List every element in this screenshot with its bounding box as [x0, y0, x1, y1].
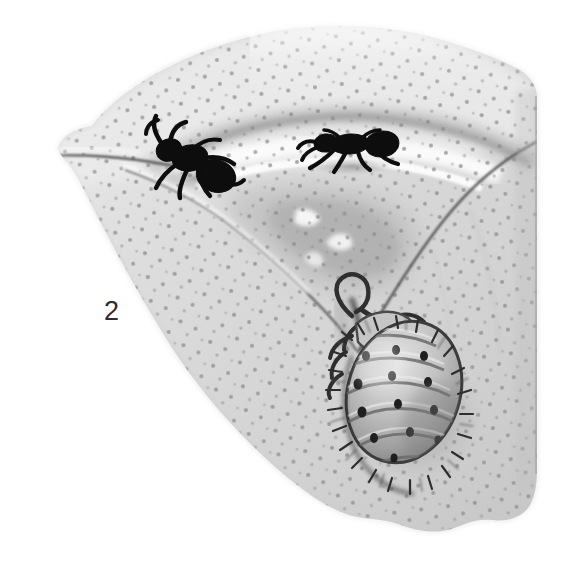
illustration-plate: 2: [0, 0, 566, 585]
right-cut-edge: [516, 90, 538, 490]
figure-number-label: 2: [104, 298, 119, 325]
figure-illustration: [0, 0, 566, 585]
